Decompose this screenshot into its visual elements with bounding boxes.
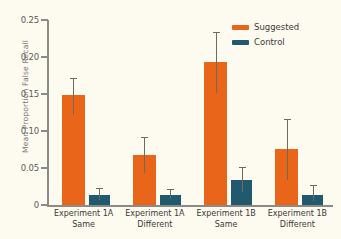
- legend-swatch-suggested: [232, 25, 249, 30]
- legend-item-control: Control: [232, 37, 299, 47]
- error-bar: [287, 120, 288, 180]
- y-tick-label: 0.10: [0, 126, 39, 136]
- error-bar-cap: [310, 185, 317, 186]
- error-bar: [242, 168, 243, 192]
- y-tick-mark: [41, 204, 48, 206]
- chart-legend: Suggested Control: [232, 22, 299, 52]
- y-tick-mark: [41, 130, 48, 132]
- x-axis-line: [47, 205, 333, 207]
- legend-label-control: Control: [254, 37, 285, 47]
- y-tick-mark: [41, 56, 48, 58]
- y-tick-label: 0.25: [0, 15, 39, 25]
- x-axis-label: Experiment 1BSame: [191, 209, 262, 230]
- error-bar: [73, 79, 74, 115]
- error-bar-cap: [239, 167, 246, 168]
- error-bar: [144, 138, 145, 174]
- y-tick-label: 0.20: [0, 52, 39, 62]
- x-axis-label: Experiment 1ASame: [48, 209, 119, 230]
- error-bar-cap: [96, 188, 103, 189]
- y-tick-mark: [41, 19, 48, 21]
- error-bar-cap: [213, 32, 220, 33]
- x-axis-label: Experiment 1BDifferent: [262, 209, 333, 230]
- legend-label-suggested: Suggested: [254, 22, 299, 32]
- y-tick-mark: [41, 93, 48, 95]
- y-tick-mark: [41, 167, 48, 169]
- x-axis-label: Experiment 1ADifferent: [119, 209, 190, 230]
- legend-swatch-control: [232, 40, 249, 45]
- chart-figure: Mean Proportion False Recall 0.250.200.1…: [0, 0, 341, 239]
- error-bar-cap: [167, 189, 174, 190]
- error-bar: [170, 190, 171, 199]
- error-bar: [99, 189, 100, 200]
- error-bar-cap: [141, 137, 148, 138]
- y-tick-label: 0.15: [0, 89, 39, 99]
- error-bar-cap: [70, 78, 77, 79]
- error-bar: [216, 33, 217, 92]
- legend-item-suggested: Suggested: [232, 22, 299, 32]
- error-bar: [313, 186, 314, 201]
- y-tick-label: 0.05: [0, 163, 39, 173]
- error-bar-cap: [284, 119, 291, 120]
- y-tick-label: 0: [0, 200, 39, 210]
